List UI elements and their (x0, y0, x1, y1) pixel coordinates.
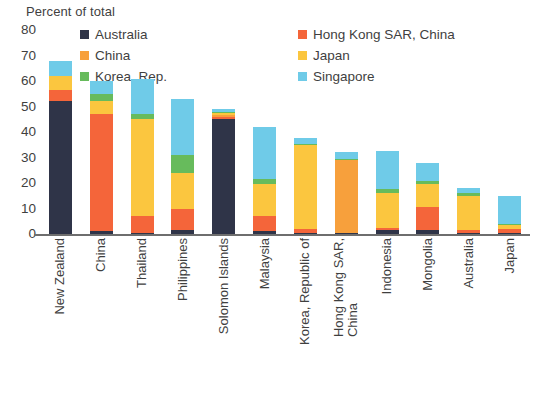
bar-segment (416, 184, 439, 207)
x-label-slot: Japan (489, 238, 530, 368)
x-axis-tick-label: Hong Kong SAR, China (333, 238, 360, 337)
bar-segment (376, 151, 399, 189)
x-axis-tick-label: Philippines (176, 238, 190, 301)
bar-segment (335, 160, 358, 233)
bar-slot (407, 30, 448, 234)
bar-segment (49, 61, 72, 76)
bar-slot (81, 30, 122, 234)
x-axis-tick-label: China (94, 238, 108, 272)
x-label-slot: Mongolia (407, 238, 448, 368)
bar-segment (376, 230, 399, 234)
bar-segment (131, 233, 154, 234)
bar-segment (90, 231, 113, 234)
bar-segment (131, 119, 154, 216)
bar-slot (326, 30, 367, 234)
bar-slot (122, 30, 163, 234)
bar-segment (498, 196, 521, 224)
x-label-slot: Australia (448, 238, 489, 368)
bar-group (40, 30, 530, 234)
bar-slot (448, 30, 489, 234)
bar-segment (335, 233, 358, 234)
bar-segment (90, 94, 113, 102)
bar-slot (162, 30, 203, 234)
stacked-bar[interactable] (457, 188, 480, 234)
x-label-slot: Solomon Islands (203, 238, 244, 368)
x-axis-tick-label: Korea, Republic of (299, 238, 313, 345)
y-axis-tick-label: 70 (6, 49, 36, 63)
stacked-bar[interactable] (335, 152, 358, 234)
x-axis-tick-label: New Zealand (54, 238, 68, 315)
bar-segment (49, 90, 72, 101)
x-label-slot: New Zealand (40, 238, 81, 368)
x-label-slot: Indonesia (367, 238, 408, 368)
bar-segment (376, 193, 399, 227)
bar-segment (171, 99, 194, 155)
bar-slot (244, 30, 285, 234)
x-axis-tick-label: Malaysia (258, 238, 272, 289)
x-axis-tick-label: Mongolia (421, 238, 435, 291)
bar-segment (253, 184, 276, 216)
stacked-bar[interactable] (171, 99, 194, 234)
bar-slot (489, 30, 530, 234)
stacked-bar[interactable] (90, 81, 113, 234)
y-axis-title: Percent of total (26, 4, 115, 19)
y-axis-tick-label: 10 (6, 202, 36, 216)
bar-slot (367, 30, 408, 234)
x-label-slot: Philippines (162, 238, 203, 368)
bar-segment (416, 207, 439, 230)
y-axis-tick-label: 40 (6, 125, 36, 139)
bar-segment (90, 81, 113, 94)
bar-segment (294, 233, 317, 234)
x-axis-tick-label: Indonesia (380, 238, 394, 294)
y-axis-tick-label: 30 (6, 151, 36, 165)
stacked-bar[interactable] (376, 151, 399, 234)
bar-segment (171, 230, 194, 234)
y-axis-tick-label: 50 (6, 100, 36, 114)
bar-segment (498, 233, 521, 234)
bar-segment (416, 163, 439, 181)
bar-segment (253, 231, 276, 234)
x-axis-tick-label: Solomon Islands (217, 238, 231, 334)
bar-segment (294, 145, 317, 229)
x-axis-tick-label: Australia (462, 238, 476, 289)
x-axis-labels: New ZealandChinaThailandPhilippinesSolom… (40, 238, 530, 368)
bar-segment (171, 209, 194, 231)
bar-slot (285, 30, 326, 234)
bar-segment (171, 173, 194, 209)
x-label-slot: China (81, 238, 122, 368)
stacked-bar[interactable] (416, 163, 439, 234)
x-label-slot: Korea, Republic of (285, 238, 326, 368)
stacked-bar[interactable] (253, 127, 276, 234)
x-label-slot: Thailand (122, 238, 163, 368)
y-axis-tick-label: 80 (6, 23, 36, 37)
stacked-bar[interactable] (294, 138, 317, 234)
bar-segment (253, 216, 276, 231)
y-axis-tick-label: 20 (6, 176, 36, 190)
x-axis-baseline (34, 234, 530, 236)
bar-segment (212, 119, 235, 234)
bar-segment (253, 127, 276, 179)
stacked-bar[interactable] (49, 61, 72, 234)
bar-segment (457, 196, 480, 230)
bar-segment (171, 155, 194, 173)
plot-area: 80706050403020100 (40, 30, 530, 234)
bar-segment (416, 230, 439, 234)
bar-segment (49, 76, 72, 90)
x-axis-tick-label: Japan (503, 238, 517, 273)
bar-segment (131, 216, 154, 233)
stacked-bar[interactable] (498, 196, 521, 234)
bar-segment (90, 114, 113, 231)
bar-segment (457, 233, 480, 234)
stacked-bar-chart: Percent of total AustraliaChinaKorea, Re… (0, 0, 537, 402)
x-axis-tick-label: Thailand (135, 238, 149, 288)
bar-segment (49, 101, 72, 234)
x-label-slot: Malaysia (244, 238, 285, 368)
y-axis-tick-label: 0 (6, 227, 36, 241)
bar-segment (131, 79, 154, 115)
y-axis-tick-label: 60 (6, 74, 36, 88)
x-label-slot: Hong Kong SAR, China (326, 238, 367, 368)
bar-segment (90, 101, 113, 114)
stacked-bar[interactable] (131, 79, 154, 235)
bar-slot (40, 30, 81, 234)
stacked-bar[interactable] (212, 109, 235, 234)
